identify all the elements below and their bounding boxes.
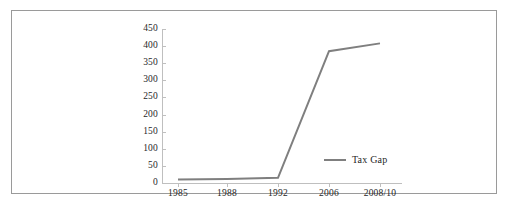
- chart-figure: 450 400 350 300 250 200 150 100 50 0 198…: [0, 0, 513, 206]
- legend-label-tax-gap: Tax Gap: [352, 155, 387, 165]
- legend-line-swatch-tax-gap: [324, 159, 346, 161]
- figure-border: 450 400 350 300 250 200 150 100 50 0 198…: [11, 10, 497, 194]
- series-layer: [12, 11, 513, 206]
- legend: Tax Gap: [324, 155, 387, 165]
